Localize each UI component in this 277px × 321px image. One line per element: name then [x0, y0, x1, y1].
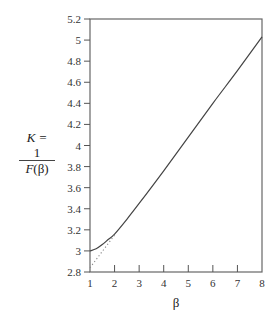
x-tick-label: 3	[136, 277, 142, 289]
series-line-main	[90, 37, 262, 251]
series-line-asymptote	[90, 235, 115, 268]
series-group	[90, 37, 262, 268]
y-tick-label: 4.2	[67, 118, 81, 130]
y-tick-label: 5	[76, 34, 82, 46]
x-tick-label: 6	[210, 277, 216, 289]
y-tick-label: 3.4	[67, 203, 81, 215]
x-tick-label: 1	[87, 277, 93, 289]
y-tick-label: 3.2	[67, 224, 81, 236]
x-tick-label: 4	[161, 277, 167, 289]
y-tick-label: 4.6	[67, 76, 81, 88]
y-axis-title-denominator: F(β)	[12, 161, 62, 176]
y-axis-title: K = 1 F(β)	[12, 130, 62, 176]
y-tick-label: 3	[76, 245, 82, 257]
y-tick-label: 4.4	[67, 97, 81, 109]
y-axis-ticks: 2.833.23.43.63.844.24.44.64.855.2	[67, 13, 90, 278]
x-tick-label: 5	[186, 277, 192, 289]
y-axis-title-line1: K =	[27, 130, 48, 145]
y-tick-label: 5.2	[67, 13, 81, 25]
x-axis-title: β	[173, 295, 180, 310]
y-tick-label: 2.8	[67, 266, 81, 278]
y-axis-title-arg: (β)	[33, 161, 48, 176]
y-axis-title-numerator: 1	[19, 145, 55, 161]
plot-border	[90, 19, 262, 272]
x-tick-label: 7	[235, 277, 241, 289]
y-tick-label: 4	[76, 140, 82, 152]
y-tick-label: 3.8	[67, 161, 81, 173]
x-tick-label: 8	[259, 277, 265, 289]
y-tick-label: 3.6	[67, 182, 81, 194]
x-axis-ticks: 12345678	[87, 265, 265, 289]
y-tick-label: 4.8	[67, 55, 81, 67]
x-tick-label: 2	[112, 277, 118, 289]
plot-frame	[90, 19, 262, 272]
